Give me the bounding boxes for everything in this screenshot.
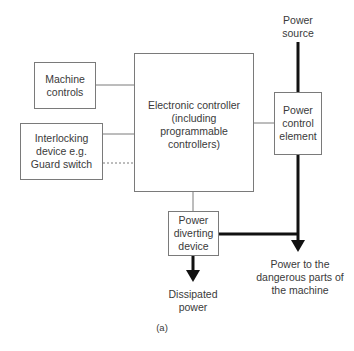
- controller-line-2: (including: [148, 112, 240, 125]
- power-control-line-3: element: [279, 130, 316, 143]
- diverting-line-1: Power: [174, 214, 214, 227]
- dissipated-line-2: power: [158, 301, 228, 314]
- arrowhead-dissipated-icon: [186, 270, 200, 282]
- power-to-machine-line-2: dangerous parts of: [248, 271, 352, 284]
- figure-caption: (a): [150, 321, 174, 334]
- controller-line-3: programmable: [148, 125, 240, 138]
- power-source-line-1: Power: [268, 14, 328, 27]
- controller-line-1: Electronic controller: [148, 99, 240, 112]
- diverting-line-2: diverting: [174, 227, 214, 240]
- interlocking-line-1: Interlocking: [31, 132, 92, 145]
- arrowhead-to-machine-icon: [291, 240, 305, 252]
- machine-controls-box: Machine controls: [34, 62, 96, 109]
- power-to-machine-line-3: the machine: [248, 284, 352, 297]
- dissipated-power-label: Dissipated power: [158, 288, 228, 314]
- power-source-line-2: source: [268, 27, 328, 40]
- controller-line-4: controllers): [148, 138, 240, 151]
- interlocking-device-box: Interlocking device e.g. Guard switch: [20, 123, 103, 180]
- power-control-line-1: Power: [279, 104, 316, 117]
- power-diverting-device-box: Power diverting device: [168, 211, 219, 256]
- power-source-label: Power source: [268, 14, 328, 40]
- power-to-machine-label: Power to the dangerous parts of the mach…: [248, 258, 352, 297]
- interlocking-line-3: Guard switch: [31, 158, 92, 171]
- machine-controls-line-2: controls: [45, 86, 85, 99]
- power-to-machine-line-1: Power to the: [248, 258, 352, 271]
- interlocking-line-2: device e.g.: [31, 145, 92, 158]
- power-control-element-box: Power control element: [274, 92, 322, 155]
- electronic-controller-box: Electronic controller (including program…: [134, 53, 254, 192]
- power-control-line-2: control: [279, 117, 316, 130]
- diverting-line-3: device: [174, 240, 214, 253]
- machine-controls-line-1: Machine: [45, 73, 85, 86]
- dissipated-line-1: Dissipated: [158, 288, 228, 301]
